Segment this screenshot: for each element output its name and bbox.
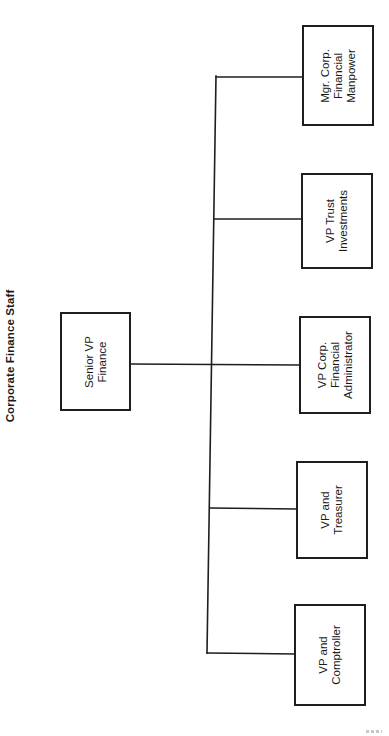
org-node-label-line: Administrator bbox=[342, 331, 355, 399]
org-node-label: Senior VP Finance bbox=[83, 336, 109, 388]
org-node-label-line: Finance bbox=[96, 336, 109, 388]
org-node-label-line: Senior VP bbox=[83, 336, 96, 388]
org-node-vp-trust-investments: VP Trust Investments bbox=[301, 173, 373, 269]
org-node-vp-and-treasurer: VP and Treasurer bbox=[296, 461, 368, 559]
org-node-label-line: VP Trust bbox=[324, 190, 337, 252]
org-node-label: VP and Comptroller bbox=[317, 625, 343, 684]
org-node-label-line: VP and bbox=[319, 485, 332, 534]
org-node-label-line: Investments bbox=[337, 190, 350, 252]
org-node-label: VP and Treasurer bbox=[319, 485, 345, 534]
org-node-label-line: Mgr. Corp. bbox=[319, 49, 332, 103]
org-node-label: Mgr. Corp. Financial Manpower bbox=[319, 49, 358, 103]
org-node-label-line: VP Corp. bbox=[316, 331, 329, 399]
org-node-label-line: VP and bbox=[317, 625, 330, 684]
org-node-mgr-corp-financial-manpower: Mgr. Corp. Financial Manpower bbox=[302, 25, 374, 126]
org-connector-branch-2 bbox=[210, 508, 296, 509]
org-node-label: VP Trust Investments bbox=[324, 190, 350, 252]
org-node-vp-corp-financial-administrator: VP Corp. Financial Administrator bbox=[299, 316, 371, 414]
org-chart: Corporate Finance Staff Senior VP Financ… bbox=[0, 0, 389, 736]
org-node-label-line: Financial bbox=[332, 49, 345, 103]
org-node-label-line: Treasurer bbox=[332, 485, 345, 534]
org-node-vp-and-comptroller: VP and Comptroller bbox=[294, 604, 366, 706]
chart-title: Corporate Finance Staff bbox=[4, 290, 16, 423]
org-node-label-line: Comptroller bbox=[330, 625, 343, 684]
org-node-label-line: Manpower bbox=[345, 49, 358, 103]
page-number-fragment bbox=[366, 730, 382, 733]
org-node-label-line: Financial bbox=[329, 331, 342, 399]
org-node-senior-vp-finance: Senior VP Finance bbox=[60, 312, 131, 411]
org-node-label: VP Corp. Financial Administrator bbox=[316, 331, 355, 399]
org-connector-branch-3 bbox=[207, 653, 294, 654]
org-connector-root bbox=[131, 364, 299, 365]
